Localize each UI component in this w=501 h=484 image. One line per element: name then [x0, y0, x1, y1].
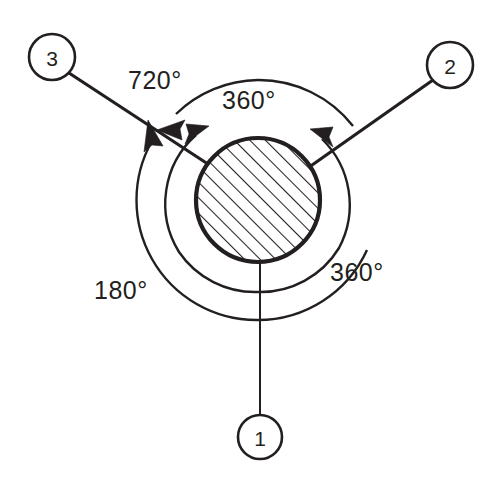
angle-label-360-right: 360°	[330, 258, 384, 286]
angle-label-180: 180°	[94, 276, 148, 304]
hatched-shaft-group	[196, 138, 320, 262]
balloon-3-label: 3	[46, 47, 58, 70]
balloon-3-group[interactable]: 3	[29, 34, 75, 80]
diagram-svg: 3 2 1 720° 360° 360° 180°	[0, 0, 501, 484]
balloon-2-label: 2	[444, 55, 456, 78]
balloon-1-group[interactable]: 1	[238, 415, 282, 459]
hatched-shaft-circle	[196, 138, 320, 262]
rotation-diagram-canvas: 3 2 1 720° 360° 360° 180°	[0, 0, 501, 484]
angle-label-720: 720°	[128, 66, 182, 94]
balloon-1-label: 1	[254, 427, 266, 450]
angle-label-360-top: 360°	[222, 86, 276, 114]
balloon-2-group[interactable]: 2	[427, 42, 473, 88]
